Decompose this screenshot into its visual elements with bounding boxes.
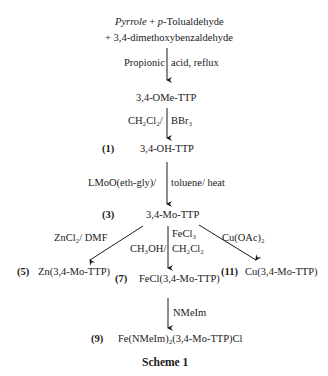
compound-9-name-suffix: (3,4-Mo-TTP)Cl: [172, 333, 242, 344]
compound-1-label: (1): [102, 143, 114, 155]
branch-left-conditions: ZnCl₂/ DMF: [54, 232, 108, 244]
step2-conditions-left: CH₂Cl₂/: [128, 115, 163, 127]
compound-3-name: 3,4-Mo-TTP: [146, 209, 199, 221]
compound-9-name-prefix: Fe(NMeIm): [118, 333, 169, 344]
compound-11-label: (11): [221, 266, 238, 278]
branch-center-conditions-top: FeCl₃: [172, 228, 196, 240]
step3-conditions-right: toluene/ heat: [171, 177, 225, 189]
compound-1-name: 3,4-OH-TTP: [140, 143, 194, 155]
branch-center-conditions-right: CH₂Cl₂: [172, 243, 204, 255]
pyrrole-text: Pyrrole: [115, 16, 147, 27]
compound-ome-ttp: 3,4-OMe-TTP: [136, 92, 196, 104]
branch-right-conditions: Cu(OAc)₂: [222, 232, 265, 244]
plus-text: +: [147, 16, 158, 27]
starting-materials-line1: Pyrrole + p-Tolualdehyde: [115, 16, 224, 28]
compound-11-name: Cu(3,4-Mo-TTP): [245, 266, 318, 278]
step2-conditions-right: BBr₃: [171, 115, 192, 127]
scheme-title: Scheme 1: [142, 356, 188, 368]
step1-conditions-left: Propionic: [124, 57, 165, 69]
final-step-conditions: NMeIm: [173, 307, 206, 319]
compound-7-name: FeCl(3,4-Mo-TTP): [139, 273, 220, 285]
step1-conditions-right: acid, reflux: [171, 57, 219, 69]
compound-3-label: (3): [102, 209, 114, 221]
compound-5-label: (5): [17, 266, 29, 278]
compound-5-name: Zn(3,4-Mo-TTP): [38, 266, 110, 278]
branch-center-conditions-left: CH₃OH/: [130, 243, 166, 255]
step3-conditions-left: LMoO(eth-gly)/: [88, 177, 156, 189]
tolualdehyde-text: -Tolualdehyde: [163, 16, 224, 27]
compound-7-label: (7): [115, 273, 127, 285]
starting-materials-line2: + 3,4-dimethoxybenzaldehyde: [105, 32, 233, 44]
compound-9-name: Fe(NMeIm)2(3,4-Mo-TTP)Cl: [118, 333, 243, 345]
compound-9-label: (9): [91, 333, 103, 345]
